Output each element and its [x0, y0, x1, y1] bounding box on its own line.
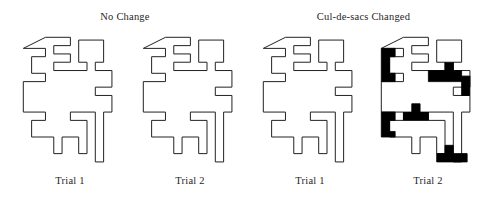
maze-outline-path	[143, 37, 232, 162]
group-heading-no-change: No Change	[0, 11, 250, 22]
maze-outline-path	[263, 37, 352, 162]
trial-caption-no-change-trial-2: Trial 2	[138, 175, 242, 186]
trial-caption-culdesacs-trial-2: Trial 2	[376, 175, 480, 186]
maze-outline-path	[23, 37, 112, 162]
trial-caption-culdesacs-trial-1: Trial 1	[258, 175, 362, 186]
trial-caption-no-change-trial-1: Trial 1	[18, 175, 122, 186]
cul-de-sac-far-right-arm	[462, 76, 470, 95]
maze-panel-culdesacs-trial-2	[373, 32, 481, 170]
stimulus-figure: No Change Cul-de-sacs Changed Trial 1 Tr…	[0, 0, 482, 201]
group-heading-culdesacs-changed: Cul-de-sacs Changed	[245, 11, 482, 22]
maze-panel-culdesacs-trial-1	[255, 32, 363, 170]
cul-de-sac-mid-upper-right-arm	[428, 62, 461, 81]
maze-panel-no-change-trial-1	[15, 32, 123, 170]
maze-panel-no-change-trial-2	[135, 32, 243, 170]
